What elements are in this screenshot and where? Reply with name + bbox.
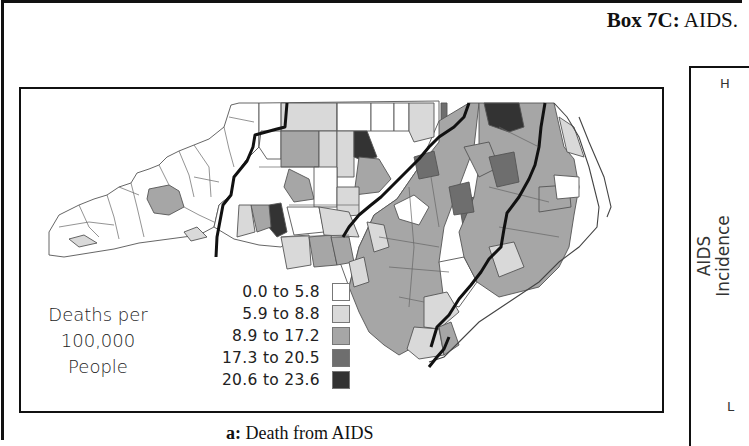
legend-label: 0.0 to 5.8 xyxy=(242,283,320,301)
outer-border-left xyxy=(1,0,4,440)
axis-label-line: AIDS xyxy=(695,196,714,316)
legend-row: 8.9 to 17.2 xyxy=(180,325,350,347)
outer-border-top xyxy=(1,0,742,3)
legend-title-line: Deaths per xyxy=(28,302,168,328)
legend-title: Deaths per 100,000 People xyxy=(28,302,168,380)
legend-row: 20.6 to 23.6 xyxy=(180,369,350,391)
map-caption: a: Death from AIDS xyxy=(226,423,373,444)
side-panel-axis-label: AIDS Incidence xyxy=(695,196,733,316)
legend-label: 5.9 to 8.8 xyxy=(242,305,320,323)
legend-label: 8.9 to 17.2 xyxy=(232,327,320,345)
box-title: Box 7C: AIDS. xyxy=(607,8,738,33)
legend-swatch xyxy=(332,283,350,301)
box-label-rest: AIDS. xyxy=(680,8,738,32)
legend-row: 5.9 to 8.8 xyxy=(180,303,350,325)
legend: 0.0 to 5.8 5.9 to 8.8 8.9 to 17.2 17.3 t… xyxy=(180,281,350,391)
legend-label: 20.6 to 23.6 xyxy=(222,371,320,389)
legend-swatch xyxy=(332,349,350,367)
axis-label-line: Incidence xyxy=(714,196,733,316)
side-panel-low-label: L xyxy=(727,399,734,414)
legend-row: 17.3 to 20.5 xyxy=(180,347,350,369)
legend-row: 0.0 to 5.8 xyxy=(180,281,350,303)
legend-label: 17.3 to 20.5 xyxy=(222,349,320,367)
legend-title-line: 100,000 xyxy=(28,328,168,354)
legend-title-line: People xyxy=(28,354,168,380)
legend-swatch xyxy=(332,305,350,323)
caption-text: Death from AIDS xyxy=(241,423,373,443)
legend-swatch xyxy=(332,327,350,345)
caption-prefix: a: xyxy=(226,423,241,443)
legend-swatch xyxy=(332,371,350,389)
side-panel-high-label: H xyxy=(720,76,730,91)
box-label-bold: Box 7C: xyxy=(607,8,680,32)
